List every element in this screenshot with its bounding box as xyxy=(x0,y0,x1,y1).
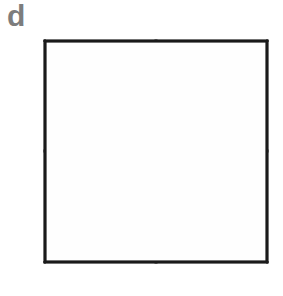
fraction-square-diagram xyxy=(0,0,283,296)
figure-panel: d xyxy=(0,0,283,296)
square-outline xyxy=(45,41,267,262)
